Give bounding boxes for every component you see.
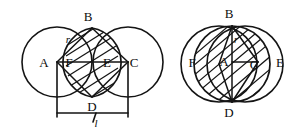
- geometry-figure: A B C D E F r l: [0, 0, 306, 130]
- right-diagram-label-a: A: [219, 54, 229, 69]
- left-diagram-label-a: A: [39, 55, 49, 70]
- left-diagram-label-radius: r: [66, 33, 71, 45]
- left-diagram-label-b: B: [84, 9, 93, 24]
- left-diagram: A B C D E F r l: [22, 9, 163, 129]
- figure-canvas: A B C D E F r l: [0, 0, 306, 130]
- right-diagram-label-c: C: [250, 57, 259, 72]
- left-diagram-label-e: E: [103, 55, 111, 70]
- right-diagram-label-radius: r: [234, 34, 238, 45]
- right-diagram-label-e: E: [276, 55, 284, 70]
- right-diagram-label-f: F: [188, 55, 195, 70]
- left-diagram-label-f: F: [65, 55, 72, 70]
- left-diagram-label-d: D: [87, 99, 96, 114]
- left-diagram-label-length: l: [94, 117, 97, 129]
- right-diagram-label-d: D: [224, 105, 233, 120]
- right-diagram: A B C D E F r: [181, 6, 294, 120]
- right-diagram-label-b: B: [225, 6, 234, 21]
- left-diagram-label-c: C: [130, 55, 139, 70]
